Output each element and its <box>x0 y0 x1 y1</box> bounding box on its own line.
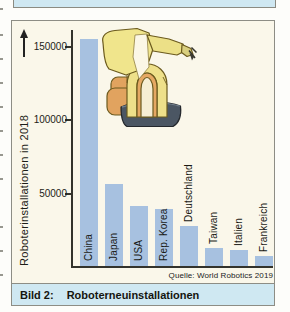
figure-title: Roboterneuinstallationen <box>67 289 200 301</box>
bar-label-usa: USA <box>133 240 145 261</box>
page-edge-scan-artifact <box>0 178 3 180</box>
page-edge-scan-artifact <box>0 82 3 84</box>
bar-label-china: China <box>83 234 95 261</box>
figure-number: Bild 2: <box>20 289 54 301</box>
bar-deutschland <box>180 226 198 266</box>
page-edge-scan-artifact <box>0 8 3 10</box>
page-edge-scan-artifact <box>0 58 3 60</box>
page-edge-scan-artifact <box>0 226 3 228</box>
y-tick-label-50000: 50000 <box>20 188 67 200</box>
y-tick-label-100000: 100000 <box>20 114 67 126</box>
page-edge-scan-artifact <box>0 250 3 252</box>
bar-label-frankreich: Frankreich <box>258 203 270 252</box>
y-axis-line <box>71 30 73 268</box>
bar-label-taiwan: Taiwan <box>208 212 220 244</box>
page-edge-scan-artifact <box>0 274 3 276</box>
page-edge-scan-artifact <box>0 34 3 36</box>
bar-label-japan: Japan <box>108 233 120 261</box>
page-edge-scan-artifact <box>0 106 3 108</box>
y-axis-arrowhead-icon <box>20 29 28 38</box>
source-note: Quelle: World Robotics 2019 <box>73 271 273 280</box>
bar-frankreich <box>255 256 273 266</box>
bar-label-italien: Italien <box>233 218 245 246</box>
page-edge-scan-artifact <box>0 130 3 132</box>
scanned-figure-page: Roboterinstallationen in 2018 5000010000… <box>0 0 290 312</box>
previous-figure-bottom-edge <box>13 0 276 8</box>
robot-illustration <box>97 27 198 130</box>
bar-taiwan <box>205 248 223 266</box>
x-axis-line <box>71 266 273 268</box>
bar-italien <box>230 250 248 266</box>
y-tick-label-150000: 150000 <box>20 41 67 53</box>
bar-label-deutschland: Deutschland <box>183 164 195 222</box>
figure-caption-bar: Bild 2: Roboterneuinstallationen <box>12 283 274 305</box>
bar-china <box>80 39 98 266</box>
page-edge-scan-artifact <box>0 154 3 156</box>
bar-label-rep-korea: Rep. Korea <box>158 208 170 261</box>
